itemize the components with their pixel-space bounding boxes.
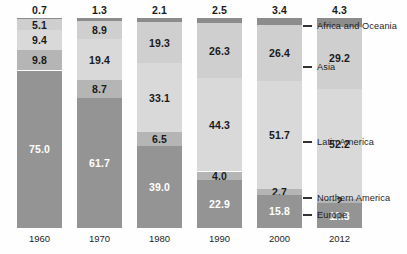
segment-value-label: 33.1 bbox=[137, 93, 182, 104]
segment-value-label: 44.3 bbox=[197, 120, 242, 131]
plot-area: 0.75.19.49.875.019601.38.919.48.761.7197… bbox=[0, 0, 300, 254]
bar-column[interactable]: 1.38.919.48.761.71970 bbox=[77, 0, 122, 254]
legend-label: Africa and Oceania bbox=[317, 21, 397, 31]
segment-value-label: 22.9 bbox=[197, 199, 242, 210]
legend-label: Northern America bbox=[317, 193, 390, 203]
segment-value-label: 6.5 bbox=[137, 134, 182, 145]
segment-value-label: 15.8 bbox=[257, 206, 302, 217]
bar-stack: 26.451.72.715.8 bbox=[257, 18, 302, 228]
legend-item[interactable]: Europe bbox=[303, 210, 347, 220]
x-axis-tick-label: 1960 bbox=[11, 233, 68, 244]
bar-column[interactable]: 2.526.344.34.022.91990 bbox=[197, 0, 242, 254]
x-axis-tick-label: 1970 bbox=[71, 233, 128, 244]
bar-total-label: 2.5 bbox=[197, 4, 242, 16]
bar-total-label: 3.4 bbox=[257, 4, 302, 16]
stacked-bar-chart: 0.75.19.49.875.019601.38.919.48.761.7197… bbox=[0, 0, 407, 254]
bar-segment[interactable] bbox=[257, 18, 302, 25]
bar-total-label: 2.1 bbox=[137, 4, 182, 16]
segment-value-label: 51.7 bbox=[257, 130, 302, 141]
legend-label: Europe bbox=[317, 210, 347, 220]
segment-value-label: 19.3 bbox=[137, 38, 182, 49]
bar-total-label: 1.3 bbox=[77, 4, 122, 16]
segment-value-label: 19.4 bbox=[77, 55, 122, 66]
x-axis-tick-label: 2000 bbox=[251, 233, 308, 244]
segment-value-label: 9.8 bbox=[17, 55, 62, 66]
legend-dash-icon bbox=[303, 141, 312, 143]
legend-label: Asia bbox=[317, 62, 335, 72]
bar-stack: 19.333.16.539.0 bbox=[137, 18, 182, 228]
x-axis-tick-label: 1990 bbox=[191, 233, 248, 244]
bar-total-label: 0.7 bbox=[17, 4, 62, 16]
legend-item[interactable]: Asia bbox=[303, 62, 335, 72]
bar-column[interactable]: 3.426.451.72.715.82000 bbox=[257, 0, 302, 254]
legend-dash-icon bbox=[303, 214, 312, 216]
chart-legend: Africa and OceaniaAsiaLatin AmericaNorth… bbox=[303, 0, 407, 254]
segment-value-label: 39.0 bbox=[137, 182, 182, 193]
legend-item[interactable]: Northern America bbox=[303, 193, 390, 203]
bar-stack: 8.919.48.761.7 bbox=[77, 18, 122, 228]
segment-value-label: 9.4 bbox=[17, 35, 62, 46]
legend-dash-icon bbox=[303, 66, 312, 68]
bar-stack: 26.344.34.022.9 bbox=[197, 18, 242, 228]
segment-value-label: 8.9 bbox=[77, 25, 122, 36]
segment-value-label: 5.1 bbox=[17, 20, 62, 31]
legend-item[interactable]: Africa and Oceania bbox=[303, 21, 397, 31]
bar-stack: 5.19.49.875.0 bbox=[17, 18, 62, 228]
bar-column[interactable]: 2.119.333.16.539.01980 bbox=[137, 0, 182, 254]
legend-dash-icon bbox=[303, 197, 312, 199]
legend-label: Latin America bbox=[317, 137, 374, 147]
legend-item[interactable]: Latin America bbox=[303, 137, 374, 147]
segment-value-label: 75.0 bbox=[17, 144, 62, 155]
segment-value-label: 26.4 bbox=[257, 48, 302, 59]
legend-dash-icon bbox=[303, 25, 312, 27]
bar-column[interactable]: 0.75.19.49.875.01960 bbox=[17, 0, 62, 254]
segment-value-label: 26.3 bbox=[197, 46, 242, 57]
segment-value-label: 8.7 bbox=[77, 84, 122, 95]
x-axis-tick-label: 1980 bbox=[131, 233, 188, 244]
segment-value-label: 61.7 bbox=[77, 158, 122, 169]
